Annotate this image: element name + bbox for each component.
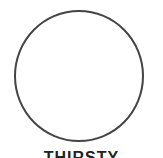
circle-outline-icon xyxy=(14,10,144,142)
caption-label: THIRSTY xyxy=(0,149,163,158)
